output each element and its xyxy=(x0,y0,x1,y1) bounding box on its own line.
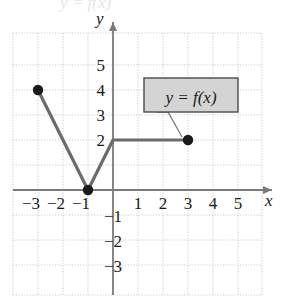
callout-leader-line xyxy=(157,112,182,137)
x-tick-label: 2 xyxy=(159,194,168,213)
grid-lines xyxy=(13,33,262,295)
callout-label: y = f(x) xyxy=(163,88,216,107)
y-axis-label: y xyxy=(94,9,104,28)
graph-figure: y = f(x) xyxy=(0,0,284,306)
point-marker xyxy=(183,135,193,145)
y-axis-arrow-icon xyxy=(109,22,117,31)
point-marker xyxy=(33,85,43,95)
x-tick-label: 4 xyxy=(209,194,218,213)
y-tick-label: 5 xyxy=(97,56,106,75)
function-graph: y = f(x) xyxy=(0,0,284,306)
x-tick-label: 1 xyxy=(134,194,143,213)
x-axis-label: x xyxy=(264,191,273,210)
axes-lines xyxy=(13,22,272,295)
y-tick-label: 2 xyxy=(97,131,106,150)
x-tick-label: 3 xyxy=(184,194,193,213)
x-tick-label: −3 xyxy=(22,194,40,213)
x-tick-label: −1 xyxy=(72,194,90,213)
y-tick-label: −1 xyxy=(104,207,122,226)
y-tick-label: −2 xyxy=(104,232,122,251)
y-tick-label: −3 xyxy=(104,257,122,276)
x-tick-label: 5 xyxy=(234,194,243,213)
x-tick-labels: −3 −2 −1 1 2 3 4 5 xyxy=(22,194,242,213)
x-tick-label: −2 xyxy=(47,194,65,213)
point-marker xyxy=(83,185,93,195)
y-tick-label: 4 xyxy=(97,81,106,100)
y-tick-label: 3 xyxy=(97,106,106,125)
